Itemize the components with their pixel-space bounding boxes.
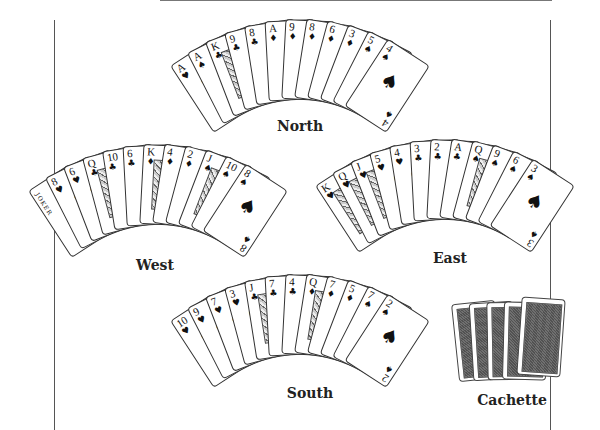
card-suit-icon: ♠ — [241, 233, 253, 245]
joker-text: JOKER — [34, 191, 54, 216]
card-suit-icon: ♣ — [269, 289, 278, 298]
card-suit-icon: ♣ — [433, 152, 442, 161]
card-suit-icon: ♥ — [395, 157, 404, 167]
card-pip-icon: ♠ — [363, 313, 416, 359]
card-pip-icon: ♠ — [363, 58, 416, 104]
card-back — [516, 297, 565, 378]
card-suit-icon: ♦ — [269, 34, 278, 43]
card-suit-icon: ♠ — [383, 108, 395, 120]
hand-label-south: South — [287, 385, 333, 401]
card-back-pattern — [522, 302, 563, 374]
card-suit-icon: ♣ — [108, 162, 117, 172]
card-pip-icon: ♠ — [221, 183, 274, 229]
card-suit-icon: ♣ — [250, 37, 259, 47]
card-suit-icon: ♣ — [127, 159, 136, 168]
hand-label-east: East — [433, 250, 467, 266]
cachette-pile — [455, 298, 575, 388]
card-suit-icon: ♣ — [288, 287, 297, 296]
card-suit-icon: ♦ — [307, 32, 316, 42]
cachette-label: Cachette — [477, 392, 547, 408]
card-pip-icon: ♠ — [508, 178, 561, 224]
card-suit-icon: ♠ — [528, 228, 540, 240]
top-rule — [160, 0, 552, 1]
card-suit-icon: ♣ — [452, 152, 461, 162]
card-suit-icon: ♣ — [414, 154, 423, 163]
card-suit-icon: ♦ — [165, 157, 174, 167]
hand-label-north: North — [277, 118, 323, 134]
card-suit-icon: ♦ — [288, 32, 297, 41]
card-suit-icon: ♠ — [383, 363, 395, 375]
hand-label-west: West — [136, 257, 174, 273]
